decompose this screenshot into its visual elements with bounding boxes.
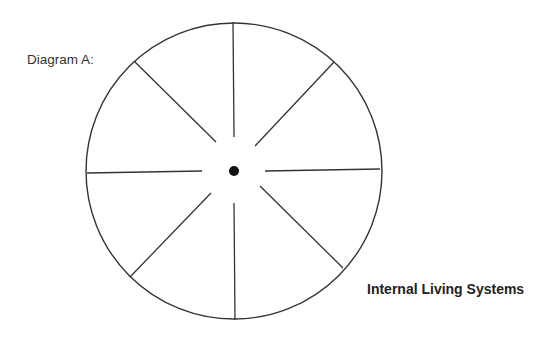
spoke-northeast (255, 62, 334, 146)
spoke-east (265, 169, 380, 171)
center-dot (229, 166, 239, 176)
spoke-southwest (130, 193, 211, 277)
spoke-south (234, 203, 235, 320)
spoke-west (87, 171, 202, 173)
spoke-southeast (260, 186, 343, 268)
spoke-northwest (134, 61, 216, 142)
diagram-caption: Internal Living Systems (367, 281, 524, 297)
spoke-north (233, 22, 234, 137)
diagram-label: Diagram A: (27, 52, 94, 67)
